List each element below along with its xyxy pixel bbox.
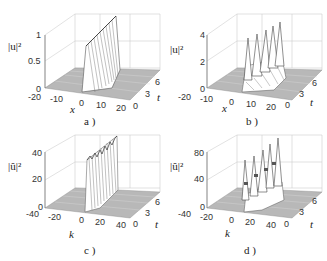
x-tick-d-3: 20 — [245, 218, 255, 227]
x-tick-d-1: -20 — [200, 213, 213, 222]
z-axis-label-d: |û|² — [170, 160, 183, 172]
panel-d: 80 40 0 |û|² -40 -20 0 20 40 6 3 0 k t d… — [162, 130, 325, 260]
z-axis-label-c: |û|² — [8, 160, 21, 172]
z-tick-d-0: 80 — [194, 149, 204, 158]
z-axis-label-b: |u|² — [170, 43, 183, 55]
x-tick-c-1: -20 — [48, 213, 61, 222]
x-tick-b-2: 0 — [229, 98, 234, 107]
y-tick-c-1: 3 — [145, 209, 150, 218]
y-tick-a-2: 0 — [133, 102, 138, 111]
z-axis-label-a: |u|² — [8, 40, 21, 52]
y-axis-label-b: t — [310, 96, 313, 108]
x-tick-c-0: -40 — [26, 210, 39, 219]
z-tick-b-0: 4 — [200, 31, 205, 40]
y-tick-d-0: 6 — [312, 197, 317, 206]
z-tick-c-1: 20 — [32, 175, 42, 184]
x-tick-a-3: 10 — [96, 101, 106, 110]
surface-plot-a — [0, 0, 163, 130]
y-tick-c-2: 0 — [133, 220, 138, 229]
caption-d: d ) — [244, 244, 256, 256]
y-axis-label-a: t — [157, 91, 160, 103]
x-tick-c-4: 40 — [116, 221, 126, 230]
caption-b: b ) — [246, 115, 258, 127]
x-tick-a-4: 20 — [116, 104, 126, 113]
x-tick-c-3: 20 — [95, 218, 105, 227]
y-tick-b-2: 0 — [285, 101, 290, 110]
y-tick-d-1: 3 — [299, 208, 304, 217]
caption-a: a ) — [84, 115, 95, 127]
y-tick-b-0: 6 — [312, 79, 317, 88]
z-tick-a-1: 0.5 — [28, 57, 41, 66]
x-tick-d-0: -40 — [178, 210, 191, 219]
z-tick-a-0: 1 — [36, 31, 41, 40]
x-axis-label-a: x — [70, 103, 75, 115]
x-axis-label-d: k — [225, 227, 230, 239]
x-tick-b-3: 10 — [246, 100, 256, 109]
x-tick-d-2: 0 — [229, 216, 234, 225]
x-axis-label-c: k — [69, 228, 74, 240]
panel-c: 40 20 0 |û|² -40 -20 0 20 40 6 3 0 k t c… — [0, 130, 163, 260]
z-tick-b-1: 2 — [200, 58, 205, 67]
x-tick-c-2: 0 — [79, 216, 84, 225]
surface-plot-d — [162, 130, 327, 261]
caption-c: c ) — [84, 244, 95, 256]
x-tick-d-4: 40 — [266, 221, 276, 230]
y-axis-label-c: t — [155, 218, 158, 230]
x-axis-label-b: x — [222, 102, 227, 114]
x-tick-a-1: -10 — [50, 95, 63, 104]
y-tick-b-1: 3 — [299, 90, 304, 99]
y-tick-a-1: 3 — [145, 90, 150, 99]
x-tick-b-4: 20 — [266, 103, 276, 112]
y-tick-c-0: 6 — [155, 198, 160, 207]
panel-b: 4 2 0 |u|² -20 -10 0 10 20 6 3 0 x t b ) — [162, 0, 325, 130]
panel-a: 1 0.5 0 |u|² -20 -10 0 10 20 6 3 0 x t a… — [0, 0, 163, 130]
z-tick-d-1: 40 — [194, 175, 204, 184]
surface-plot-b — [162, 0, 327, 130]
surface-plot-c — [0, 130, 163, 261]
z-tick-b-2: 0 — [200, 85, 205, 94]
y-axis-label-d: t — [310, 218, 313, 230]
x-tick-b-1: -10 — [200, 95, 213, 104]
z-tick-c-0: 40 — [32, 149, 42, 158]
z-tick-d-2: 0 — [200, 203, 205, 212]
x-tick-b-0: -20 — [178, 93, 191, 102]
x-tick-a-0: -20 — [28, 93, 41, 102]
y-tick-d-2: 0 — [284, 220, 289, 229]
y-tick-a-0: 6 — [155, 78, 160, 87]
x-tick-a-2: 0 — [79, 99, 84, 108]
